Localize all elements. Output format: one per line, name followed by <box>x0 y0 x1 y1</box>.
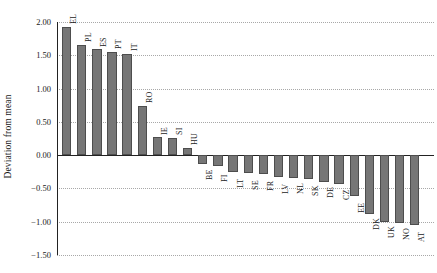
bar <box>168 138 177 155</box>
bar-group: DE <box>319 22 328 255</box>
bar <box>198 155 207 164</box>
bar-group: IE <box>153 22 162 255</box>
bar-group: PT <box>107 22 116 255</box>
bar <box>62 27 71 155</box>
bar-group: SE <box>244 22 253 255</box>
y-axis-tick-label: −1.50 <box>31 251 51 260</box>
bar-category-label: AT <box>418 231 426 241</box>
bar <box>77 45 86 156</box>
bar-group: UK <box>380 22 389 255</box>
y-axis-tick-label: 1.50 <box>36 51 51 60</box>
bar-group: DK <box>365 22 374 255</box>
bar-group: FI <box>213 22 222 255</box>
bar <box>183 148 192 155</box>
bar <box>153 137 162 155</box>
bar <box>334 155 343 184</box>
bar <box>213 155 222 166</box>
bar-group: PL <box>77 22 86 255</box>
chart-figure: Deviation from mean 2.001.501.000.500.00… <box>0 0 437 273</box>
bar-group: EE <box>350 22 359 255</box>
bar-group: NL <box>289 22 298 255</box>
bar-group: FR <box>259 22 268 255</box>
bar <box>92 49 101 155</box>
bar-series: ELPLESPTITROIESIHUBEFILTSEFRLVNLSKDECZEE… <box>57 22 434 255</box>
bar-group: IT <box>122 22 131 255</box>
y-axis-tick-label: 2.00 <box>36 18 51 27</box>
bar-group: SK <box>304 22 313 255</box>
bar-group: NO <box>395 22 404 255</box>
plot-area: ELPLESPTITROIESIHUBEFILTSEFRLVNLSKDECZEE… <box>57 22 434 255</box>
y-axis-tick-labels: 2.001.501.000.500.00−0.50−1.00−1.50 <box>16 0 54 273</box>
y-axis-tick-label: −0.50 <box>31 184 51 193</box>
gridline <box>57 255 434 256</box>
bar <box>304 155 313 179</box>
bar <box>274 155 283 177</box>
bar-group: LT <box>228 22 237 255</box>
bar-group: ES <box>92 22 101 255</box>
bar-group: LV <box>274 22 283 255</box>
bar <box>138 106 147 155</box>
bar <box>289 155 298 178</box>
bar <box>395 155 404 223</box>
bar-group: CZ <box>334 22 343 255</box>
bar-group: AT <box>410 22 419 255</box>
bar-group: SI <box>168 22 177 255</box>
bar <box>244 155 253 173</box>
y-axis-tick-label: 0.00 <box>36 151 51 160</box>
y-axis-tick-label: 0.50 <box>36 118 51 127</box>
bar <box>228 155 237 172</box>
bar <box>319 155 328 182</box>
bar <box>350 155 359 196</box>
y-axis-tick-label: 1.00 <box>36 84 51 93</box>
bar <box>259 155 268 174</box>
bar-group: HU <box>183 22 192 255</box>
bar <box>365 155 374 214</box>
bar <box>122 54 131 155</box>
bar-group: EL <box>62 22 71 255</box>
bar <box>410 155 419 225</box>
bar-group: RO <box>138 22 147 255</box>
bar-group: BE <box>198 22 207 255</box>
y-axis-title: Deviation from mean <box>0 0 16 273</box>
bar <box>380 155 389 222</box>
y-axis-tick-label: −1.00 <box>31 217 51 226</box>
bar <box>107 52 116 155</box>
